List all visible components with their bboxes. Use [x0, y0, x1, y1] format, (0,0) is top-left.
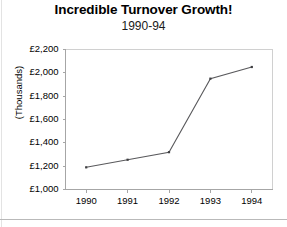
- y-axis: [63, 50, 66, 190]
- data-point-marker: [85, 166, 87, 168]
- plot-area-border: [66, 50, 273, 190]
- data-point-marker: [251, 66, 253, 68]
- y-tick-label: £1,800: [29, 90, 58, 101]
- y-tick-label: £2,200: [29, 43, 58, 54]
- y-tick-label: £1,400: [29, 136, 58, 147]
- data-point-marker: [209, 78, 211, 80]
- y-tick-label: £1,000: [29, 183, 58, 194]
- chart-figure: Incredible Turnover Growth! 1990-94 (Tho…: [0, 0, 287, 227]
- y-tick-label: £1,200: [29, 160, 58, 171]
- x-tick-label: 1991: [117, 195, 138, 206]
- data-point-marker: [127, 159, 129, 161]
- x-tick-label: 1994: [241, 195, 262, 206]
- y-tick-label: £1,600: [29, 113, 58, 124]
- x-tick-labels: 19901991199219931994: [76, 195, 263, 206]
- data-point-marker: [168, 151, 170, 153]
- x-tick-label: 1990: [76, 195, 97, 206]
- x-axis: [66, 190, 273, 193]
- y-tick-label: £2,000: [29, 66, 58, 77]
- line-chart-plot: £1,000£1,200£1,400£1,600£1,800£2,000£2,2…: [0, 0, 287, 227]
- x-tick-label: 1993: [200, 195, 221, 206]
- y-tick-labels: £1,000£1,200£1,400£1,600£1,800£2,000£2,2…: [29, 43, 58, 194]
- x-tick-label: 1992: [158, 195, 179, 206]
